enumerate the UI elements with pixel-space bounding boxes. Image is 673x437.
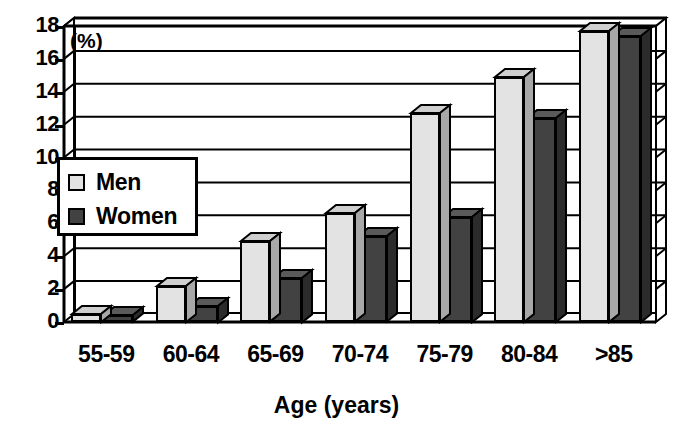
y-tick-label: 4: [15, 244, 59, 266]
legend-label-women: Women: [96, 205, 177, 228]
bar-front-face: [240, 241, 270, 322]
legend-label-men: Men: [96, 171, 141, 194]
bar-front-face: [410, 113, 440, 322]
bar-front-face: [71, 314, 101, 322]
bar-side-face: [185, 276, 199, 324]
bar-side-face: [354, 203, 368, 324]
bar-men-75-79: [410, 113, 440, 322]
x-tick-label-80-84: 80-84: [487, 341, 572, 367]
y-tick-label: 8: [15, 178, 59, 200]
x-tick-label-75-79: 75-79: [402, 341, 487, 367]
bar-front-face: [156, 286, 186, 322]
legend-swatch-men: [68, 174, 85, 191]
x-tick-label->85: >85: [571, 341, 656, 367]
bar-side-face: [523, 67, 537, 324]
y-tick-mark: [55, 26, 64, 29]
bar-chart: 181614121086420 (%) Men Women 55-5960-64…: [0, 0, 673, 437]
x-tick-label-70-74: 70-74: [318, 341, 403, 367]
bar-side-face: [555, 108, 569, 324]
y-tick-mark: [55, 322, 64, 325]
bar-front-face: [325, 213, 355, 322]
y-tick-label: 0: [15, 310, 59, 332]
x-tick-label-55-59: 55-59: [64, 341, 149, 367]
bar-side-face: [269, 231, 283, 324]
bar-men-60-64: [156, 286, 186, 322]
y-tick-label: 16: [15, 47, 59, 69]
x-tick-label-65-69: 65-69: [233, 341, 318, 367]
y-axis-unit-label: (%): [70, 30, 103, 52]
y-tick-label: 6: [15, 211, 59, 233]
y-tick-mark: [55, 289, 64, 292]
bar-side-face: [439, 103, 453, 324]
bar-side-face: [386, 226, 400, 324]
legend-item-women: Women: [68, 199, 195, 233]
bar-men-55-59: [71, 314, 101, 322]
bar-men->85: [579, 31, 609, 322]
y-tick-label: 14: [15, 80, 59, 102]
y-tick-label: 12: [15, 113, 59, 135]
y-tick-mark: [55, 59, 64, 62]
chart-legend: Men Women: [57, 157, 198, 236]
bar-men-70-74: [325, 213, 355, 322]
bar-side-face: [640, 26, 654, 324]
bar-front-face: [579, 31, 609, 322]
legend-item-men: Men: [68, 165, 195, 199]
y-tick-mark: [55, 92, 64, 95]
y-tick-label: 10: [15, 146, 59, 168]
y-tick-mark: [55, 256, 64, 259]
x-tick-label-60-64: 60-64: [149, 341, 234, 367]
legend-swatch-women: [68, 208, 85, 225]
y-tick-label: 18: [15, 14, 59, 36]
bar-side-face: [100, 304, 114, 324]
bar-front-face: [494, 77, 524, 322]
bar-men-65-69: [240, 241, 270, 322]
bar-side-face: [132, 305, 146, 324]
bar-side-face: [217, 296, 231, 324]
bar-side-face: [301, 268, 315, 324]
y-tick-label: 2: [15, 277, 59, 299]
y-tick-mark: [55, 125, 64, 128]
bar-men-80-84: [494, 77, 524, 322]
x-axis-title: Age (years): [0, 392, 673, 418]
bar-side-face: [608, 21, 622, 324]
bar-side-face: [471, 207, 485, 324]
